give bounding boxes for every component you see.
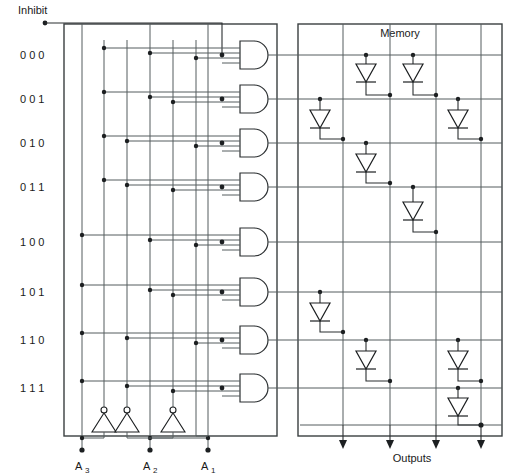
row-label-3: 0 1 1 <box>20 181 44 193</box>
row-label-7: 1 1 1 <box>20 382 44 394</box>
row-6: 1 1 0 <box>20 326 502 354</box>
diode-r1-c4 <box>448 97 483 141</box>
memory-label: Memory <box>380 27 420 39</box>
row-3: 0 1 1 <box>20 173 502 201</box>
diode-r0-c2 <box>356 53 392 97</box>
input-terminal-a1 <box>205 447 210 452</box>
inhibit-wire <box>45 23 222 55</box>
memory-box <box>298 24 502 436</box>
input-terminal-a2 <box>147 447 152 452</box>
row-label-4: 1 0 0 <box>20 236 44 248</box>
and-gate-4 <box>240 228 268 256</box>
diode-r7-c4 <box>448 386 484 428</box>
and-gate-1 <box>240 85 268 113</box>
row-label-0: 0 0 0 <box>20 49 44 61</box>
inverter-a3 <box>80 395 116 450</box>
diode-r3-c3 <box>403 185 438 234</box>
label-a2-sub: 2 <box>153 466 158 474</box>
row-7: 1 1 1 <box>20 374 502 402</box>
diode-r5-c1 <box>310 290 345 334</box>
and-gate-0 <box>240 41 268 69</box>
outputs-label: Outputs <box>393 452 432 464</box>
row-5: 1 0 1 <box>20 278 502 306</box>
and-gate-5 <box>240 278 268 306</box>
input-terminal-a3 <box>79 447 84 452</box>
inverter-a2 <box>148 395 185 450</box>
row-2: 0 1 0 <box>20 129 502 157</box>
address-input-labels: A 3 A 2 A 1 <box>75 460 216 474</box>
output-arrows <box>339 425 485 449</box>
diode-r0-c3 <box>403 53 438 97</box>
diode-r1-c1 <box>310 97 345 141</box>
and-gate-7 <box>240 374 268 402</box>
and-gate-3 <box>240 173 268 201</box>
diode-r6-c2 <box>356 338 392 383</box>
row-label-6: 1 1 0 <box>20 334 44 346</box>
row-1: 0 0 1 <box>20 85 502 113</box>
inhibit-label: Inhibit <box>18 4 47 16</box>
label-a3-sub: 3 <box>85 466 90 474</box>
row-label-1: 0 0 1 <box>20 93 44 105</box>
label-a1: A <box>201 460 209 472</box>
circuit-diagram: Inhibit Memory Outputs 0 0 0 <box>0 0 522 474</box>
label-a1-sub: 1 <box>211 466 216 474</box>
and-gate-6 <box>240 326 268 354</box>
and-gate-2 <box>240 129 268 157</box>
row-label-2: 0 1 0 <box>20 137 44 149</box>
address-column-lines <box>82 24 208 400</box>
rom-decoder-schematic: Inhibit Memory Outputs 0 0 0 <box>0 0 522 474</box>
row-label-5: 1 0 1 <box>20 286 44 298</box>
diode-r2-c2 <box>356 141 392 185</box>
label-a3: A <box>75 460 83 472</box>
diode-r6-c4 <box>448 338 483 383</box>
row-0: 0 0 0 <box>20 41 502 69</box>
label-a2: A <box>143 460 151 472</box>
